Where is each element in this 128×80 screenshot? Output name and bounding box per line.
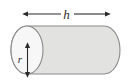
height-label: h	[63, 7, 70, 22]
cylinder-diagram-container: h r	[0, 0, 128, 80]
cylinder-diagram: h r	[0, 0, 128, 80]
height-dimension-arrow: h	[28, 7, 105, 22]
radius-label: r	[18, 53, 23, 65]
